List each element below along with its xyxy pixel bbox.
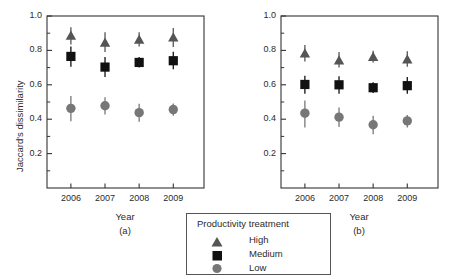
plot-area-b xyxy=(234,0,467,210)
y-tick-label: 0.6 xyxy=(17,79,42,89)
x-tick-label: 2008 xyxy=(355,193,391,203)
legend-label-medium: Medium xyxy=(249,248,283,259)
y-tick-label: 0.2 xyxy=(17,148,42,158)
y-tick-label: 0.2 xyxy=(251,148,276,158)
x-tick-label: 2009 xyxy=(155,193,191,203)
legend-square-icon xyxy=(213,251,223,261)
legend-triangle-icon xyxy=(212,237,223,247)
plot-area-a xyxy=(0,0,233,210)
y-tick-label: 1.0 xyxy=(251,10,276,20)
legend-label-high: High xyxy=(249,234,269,245)
y-tick-label: 0.4 xyxy=(251,113,276,123)
panel-tag-a: (a) xyxy=(95,225,155,236)
y-tick-label: 0.6 xyxy=(251,79,276,89)
legend: Productivity treatment High Medium Low xyxy=(186,213,331,275)
x-axis-title-b: Year xyxy=(329,211,389,222)
legend-circle-icon xyxy=(212,264,221,273)
y-tick-label: 1.0 xyxy=(17,10,42,20)
x-tick-label: 2008 xyxy=(121,193,157,203)
y-tick-label: 0.8 xyxy=(17,44,42,54)
x-tick-label: 2009 xyxy=(389,193,425,203)
x-axis-title-a: Year xyxy=(95,211,155,222)
panel-tag-b: (b) xyxy=(329,225,389,236)
x-tick-label: 2006 xyxy=(287,193,323,203)
panel-b: Year (b) xyxy=(234,0,467,210)
y-axis-label-a: Jaccard's dissimilarity xyxy=(14,80,25,172)
x-tick-label: 2007 xyxy=(321,193,357,203)
x-tick-label: 2006 xyxy=(53,193,89,203)
figure-root: Jaccard's dissimilarity Year (a) Year (b… xyxy=(0,0,467,279)
legend-label-low: Low xyxy=(249,262,266,273)
y-tick-label: 0.8 xyxy=(251,44,276,54)
y-tick-label: 0.4 xyxy=(17,113,42,123)
x-tick-label: 2007 xyxy=(87,193,123,203)
panel-a: Jaccard's dissimilarity Year (a) xyxy=(0,0,233,210)
